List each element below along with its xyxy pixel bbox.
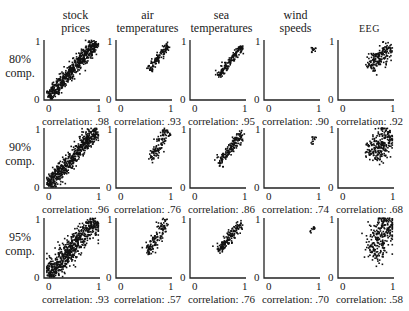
row-label-line2: comp. (0, 154, 40, 168)
y-tick-1: 1 (35, 124, 41, 135)
y-tick-1: 1 (107, 214, 113, 225)
scatter-panel (263, 128, 320, 188)
x-tick-0: 0 (46, 281, 52, 292)
y-tick-0: 0 (106, 272, 112, 283)
scatter-plot (189, 128, 250, 190)
scatter-plot (115, 218, 176, 280)
y-tick-1: 1 (329, 36, 335, 47)
scatter-plot (263, 40, 324, 102)
x-tick-1: 1 (316, 281, 322, 292)
x-tick-0: 0 (118, 281, 124, 292)
column-title-line2: EEG (330, 22, 409, 35)
x-tick-0: 0 (46, 191, 52, 202)
x-tick-0: 0 (118, 191, 124, 202)
correlation-label: correlation: .58 (325, 293, 409, 305)
x-tick-0: 0 (192, 191, 198, 202)
x-tick-1: 1 (390, 281, 396, 292)
x-tick-1: 1 (242, 103, 248, 114)
scatter-plot (43, 128, 104, 190)
x-tick-1: 1 (168, 103, 174, 114)
x-tick-1: 1 (168, 191, 174, 202)
scatter-panel (43, 128, 100, 188)
row-label: 80%comp. (0, 52, 40, 80)
scatter-plot (43, 40, 104, 102)
y-tick-0: 0 (254, 182, 260, 193)
y-tick-1: 1 (255, 214, 261, 225)
x-tick-1: 1 (242, 191, 248, 202)
axis-lines (338, 40, 394, 100)
x-tick-0: 0 (266, 281, 272, 292)
y-tick-1: 1 (329, 124, 335, 135)
scatter-panel (337, 128, 394, 188)
correlation-label: correlation: .92 (325, 115, 409, 127)
column-title: airtemperatures (108, 9, 188, 35)
scatter-plot (263, 128, 324, 190)
scatter-plot (189, 40, 250, 102)
x-tick-0: 0 (340, 103, 346, 114)
y-tick-0: 0 (254, 272, 260, 283)
y-tick-0: 0 (34, 94, 40, 105)
y-tick-0: 0 (254, 94, 260, 105)
row-label-line1: 90% (0, 140, 40, 154)
y-tick-1: 1 (181, 214, 187, 225)
scatter-panel (115, 218, 172, 278)
x-tick-0: 0 (192, 281, 198, 292)
scatter-panel (43, 40, 100, 100)
y-tick-0: 0 (34, 182, 40, 193)
scatter-panel (263, 40, 320, 100)
column-title-line2: temperatures (182, 22, 262, 35)
axis-lines (264, 218, 320, 278)
x-tick-1: 1 (390, 103, 396, 114)
scatter-plot (43, 218, 104, 280)
y-tick-1: 1 (255, 36, 261, 47)
y-tick-0: 0 (106, 94, 112, 105)
y-tick-1: 1 (255, 124, 261, 135)
x-tick-1: 1 (96, 281, 102, 292)
x-tick-0: 0 (46, 103, 52, 114)
y-tick-1: 1 (107, 124, 113, 135)
x-tick-1: 1 (242, 281, 248, 292)
y-tick-0: 0 (180, 182, 186, 193)
scatter-plot (115, 128, 176, 190)
y-tick-0: 0 (328, 94, 334, 105)
column-title-line2: speeds (256, 22, 336, 35)
y-tick-1: 1 (35, 36, 41, 47)
x-tick-1: 1 (96, 191, 102, 202)
x-tick-1: 1 (168, 281, 174, 292)
scatter-panel (263, 218, 320, 278)
axis-lines (116, 128, 172, 188)
scatter-panel (43, 218, 100, 278)
x-tick-0: 0 (118, 103, 124, 114)
y-tick-0: 0 (328, 272, 334, 283)
column-title: stockprices (36, 9, 116, 35)
x-tick-0: 0 (192, 103, 198, 114)
x-tick-0: 0 (340, 281, 346, 292)
y-tick-1: 1 (181, 36, 187, 47)
row-label-line2: comp. (0, 66, 40, 80)
x-tick-1: 1 (96, 103, 102, 114)
scatter-plot (337, 40, 398, 102)
y-tick-1: 1 (107, 36, 113, 47)
x-tick-0: 0 (266, 103, 272, 114)
row-label-line1: 80% (0, 52, 40, 66)
row-label-line2: comp. (0, 244, 40, 258)
x-tick-0: 0 (340, 191, 346, 202)
x-tick-0: 0 (266, 191, 272, 202)
scatter-plot (337, 128, 398, 190)
column-title-line2: prices (36, 22, 116, 35)
row-label: 95%comp. (0, 230, 40, 258)
scatter-panel (189, 218, 246, 278)
axis-lines (264, 40, 320, 100)
x-tick-1: 1 (316, 191, 322, 202)
scatter-panel (115, 128, 172, 188)
column-title: seatemperatures (182, 9, 262, 35)
x-tick-1: 1 (316, 103, 322, 114)
scatter-panel (337, 40, 394, 100)
column-title: windspeeds (256, 9, 336, 35)
scatter-plot (337, 218, 398, 280)
y-tick-1: 1 (329, 214, 335, 225)
y-tick-0: 0 (34, 272, 40, 283)
scatter-plot (189, 218, 250, 280)
x-tick-1: 1 (390, 191, 396, 202)
column-title: EEG (330, 22, 409, 35)
